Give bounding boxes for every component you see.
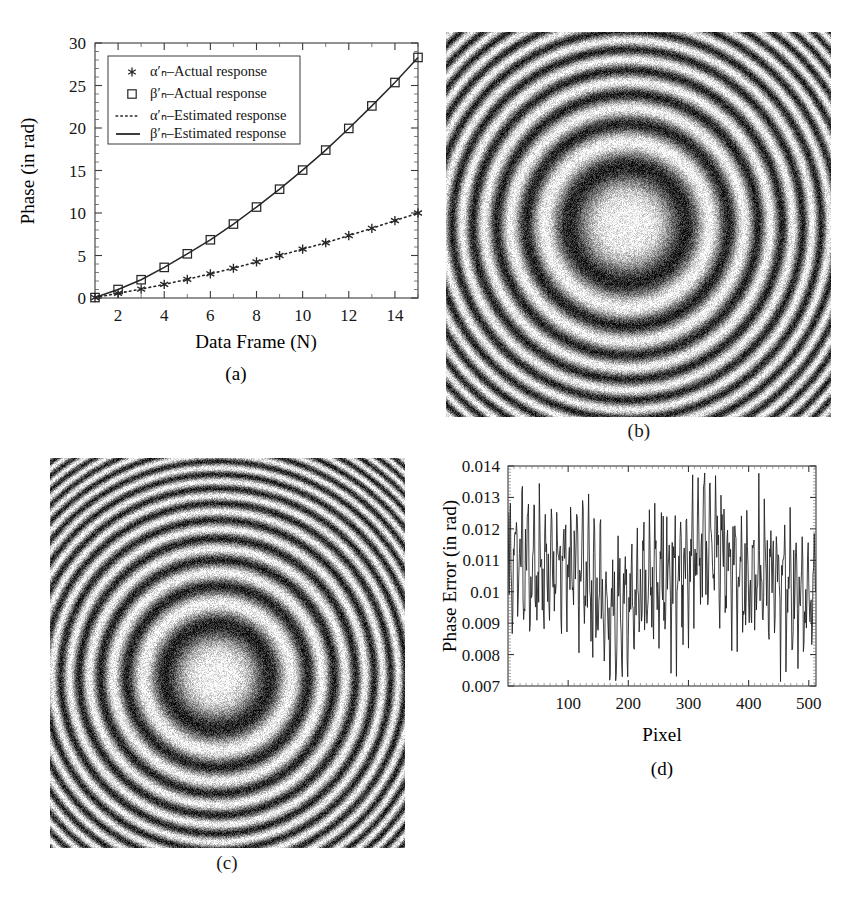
panel-a-legend: α′ₙ–Actual responseβ′ₙ–Actual responseα′… bbox=[108, 56, 300, 144]
panel-a-y-tick-label: 30 bbox=[69, 34, 86, 53]
panel-d-caption: (d) bbox=[651, 758, 673, 780]
panel-a-x-tick-label: 10 bbox=[294, 306, 311, 325]
panel-d-x-tick-label: 200 bbox=[616, 694, 642, 713]
panel-d-y-axis-title: Phase Error (in rad) bbox=[439, 500, 461, 652]
panel-a-y-tick-label: 15 bbox=[69, 162, 86, 181]
panel-d-y-tick-label: 0.008 bbox=[462, 646, 500, 665]
panel-d-x-tick-label: 500 bbox=[796, 694, 822, 713]
panel-d-svg: 0.0070.0080.0090.010.0110.0120.0130.014 … bbox=[430, 448, 864, 788]
panel-d-y-tick-label: 0.01 bbox=[470, 583, 500, 602]
panel-a-x-tick-label: 6 bbox=[206, 306, 215, 325]
panel-d-error-chart: 0.0070.0080.0090.010.0110.0120.0130.014 … bbox=[430, 448, 864, 788]
panel-c-canvas bbox=[50, 458, 405, 848]
panel-a-svg: 051015202530 2468101214 α′ₙ–Actual respo… bbox=[0, 8, 440, 388]
panel-b-canvas bbox=[446, 32, 831, 417]
panel-d-x-tick-label: 100 bbox=[555, 694, 581, 713]
panel-d-y-tick-label: 0.009 bbox=[462, 614, 500, 633]
panel-d-x-axis-title: Pixel bbox=[642, 724, 682, 745]
panel-a-y-tick-label: 5 bbox=[78, 247, 87, 266]
legend-label-beta-actual: β′ₙ–Actual response bbox=[150, 85, 267, 101]
panel-a-caption: (a) bbox=[225, 363, 246, 385]
panel-c-caption: (c) bbox=[22, 852, 432, 874]
panel-a-x-tick-label: 2 bbox=[114, 306, 123, 325]
panel-a-y-tick-label: 20 bbox=[69, 119, 86, 138]
panel-a-y-axis-title: Phase (in rad) bbox=[17, 118, 39, 225]
panel-d-y-tick-label: 0.011 bbox=[462, 551, 500, 570]
panel-a-y-tick-label: 0 bbox=[78, 289, 87, 308]
panel-a-y-tick-label: 25 bbox=[69, 77, 86, 96]
panel-a-x-axis-title: Data Frame (N) bbox=[195, 331, 317, 353]
panel-d-y-tick-label: 0.013 bbox=[462, 488, 500, 507]
panel-c-fringe-image: (c) bbox=[0, 440, 440, 880]
panel-a-x-tick-label: 12 bbox=[340, 306, 357, 325]
figure-root: 051015202530 2468101214 α′ₙ–Actual respo… bbox=[0, 0, 864, 916]
panel-b-caption: (b) bbox=[434, 420, 844, 442]
panel-a-x-tick-label: 4 bbox=[160, 306, 169, 325]
panel-a-y-tick-label: 10 bbox=[69, 204, 86, 223]
legend-label-alpha-estimated: α′ₙ–Estimated response bbox=[150, 107, 286, 123]
panel-d-y-tick-label: 0.012 bbox=[462, 520, 500, 539]
panel-d-y-tick-label: 0.014 bbox=[462, 457, 501, 476]
panel-b-fringe-image: (b) bbox=[434, 8, 864, 448]
panel-a-line-chart: 051015202530 2468101214 α′ₙ–Actual respo… bbox=[0, 8, 440, 388]
legend-label-beta-estimated: β′ₙ–Estimated response bbox=[150, 125, 286, 141]
panel-d-x-tick-label: 300 bbox=[676, 694, 702, 713]
panel-d-y-tick-label: 0.007 bbox=[462, 677, 501, 696]
panel-d-x-tick-label: 400 bbox=[736, 694, 762, 713]
legend-label-alpha-actual: α′ₙ–Actual response bbox=[150, 63, 267, 79]
panel-a-x-tick-label: 14 bbox=[386, 306, 404, 325]
panel-a-x-tick-label: 8 bbox=[252, 306, 261, 325]
